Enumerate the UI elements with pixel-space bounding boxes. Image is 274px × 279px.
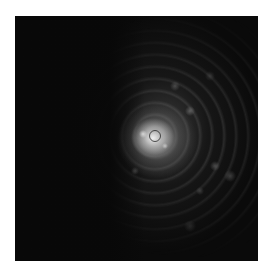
speckle-image	[15, 16, 258, 261]
figure-canvas	[0, 0, 274, 279]
center-ring-marker	[149, 130, 161, 142]
speckle-spots	[15, 16, 258, 261]
